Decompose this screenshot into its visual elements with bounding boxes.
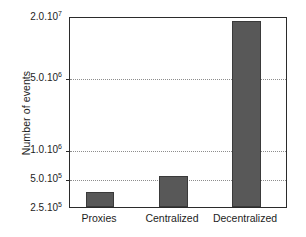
y-tick-mantissa: 1.0.10 <box>30 144 58 155</box>
y-tick-exponent: 6 <box>58 143 62 150</box>
bar-centralized <box>159 176 188 207</box>
plot-area <box>69 17 287 208</box>
y-tick-mantissa: 5.0.10 <box>30 72 58 83</box>
bar-proxies <box>86 192 114 207</box>
y-tick-exponent: 7 <box>58 10 62 17</box>
bar-decentralized <box>232 21 261 207</box>
y-tick-exponent: 5 <box>58 172 62 179</box>
y-tick-label-5e6: 5.0.106 <box>2 73 62 83</box>
gridtick-1e6 <box>66 151 70 152</box>
gridtick-5e6 <box>66 79 70 80</box>
y-tick-mantissa: 5.0.10 <box>30 173 58 184</box>
bar-chart-figure: Number of events 2.0.107 5.0.106 1.0.106… <box>0 0 306 237</box>
y-tick-exponent: 6 <box>58 71 62 78</box>
gridtick-5e5 <box>66 180 70 181</box>
x-tick-label-decentralized: Decentralized <box>185 212 305 224</box>
y-tick-label-2e7: 2.0.107 <box>2 12 62 22</box>
y-tick-label-1e6: 1.0.106 <box>2 145 62 155</box>
y-tick-mantissa: 2.0.10 <box>30 11 58 22</box>
y-tick-label-5e5: 5.0.105 <box>2 174 62 184</box>
y-tick-exponent: 5 <box>58 201 62 208</box>
